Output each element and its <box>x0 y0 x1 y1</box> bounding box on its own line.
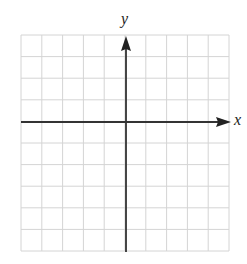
grid-graph <box>0 0 247 264</box>
y-axis-arrow-icon <box>121 36 131 51</box>
x-axis-label: x <box>234 112 241 128</box>
y-axis-label: y <box>121 11 128 27</box>
grid-lines <box>21 35 229 251</box>
